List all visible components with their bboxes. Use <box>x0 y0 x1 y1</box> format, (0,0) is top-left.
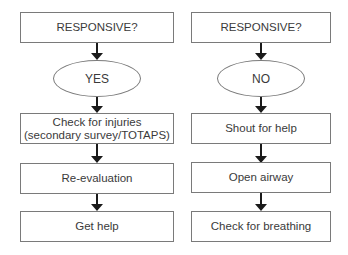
left-question-text: RESPONSIVE? <box>56 21 137 34</box>
right-question-text: RESPONSIVE? <box>220 21 301 34</box>
left-step-re-evaluation: Re-evaluation <box>20 163 174 194</box>
step-text: Re-evaluation <box>62 172 133 185</box>
right-question-box: RESPONSIVE? <box>191 12 331 43</box>
step-text-line1: Check for injuries <box>53 116 142 129</box>
arrow-down-icon <box>255 43 267 60</box>
arrow-down-icon <box>255 97 267 113</box>
arrow-down-icon <box>91 194 103 211</box>
right-step-open-airway: Open airway <box>191 162 331 193</box>
left-step-check-injuries: Check for injuries (secondary survey/TOT… <box>20 113 174 144</box>
arrow-down-icon <box>91 97 103 113</box>
step-text: Open airway <box>229 171 294 184</box>
step-text: Check for breathing <box>211 220 311 233</box>
arrow-down-icon <box>91 144 103 163</box>
right-answer-text: NO <box>252 72 270 86</box>
step-text: Shout for help <box>225 122 297 135</box>
right-step-shout-for-help: Shout for help <box>191 113 331 144</box>
step-text-line2: (secondary survey/TOTAPS) <box>24 129 170 142</box>
left-step-get-help: Get help <box>20 211 174 242</box>
step-text: Get help <box>75 220 118 233</box>
right-answer-ellipse: NO <box>217 60 305 97</box>
arrow-down-icon <box>255 193 267 211</box>
right-step-check-breathing: Check for breathing <box>191 211 331 242</box>
arrow-down-icon <box>255 144 267 163</box>
left-question-box: RESPONSIVE? <box>20 12 174 43</box>
left-answer-ellipse: YES <box>53 60 141 97</box>
arrow-down-icon <box>91 43 103 60</box>
left-answer-text: YES <box>85 72 109 86</box>
